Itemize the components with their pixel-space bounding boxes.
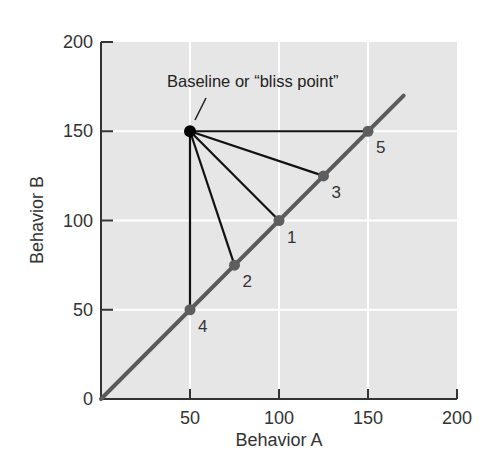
point-label-1: 1 (287, 228, 296, 247)
x-tick-label: 50 (180, 408, 200, 428)
x-tick-label: 150 (353, 408, 383, 428)
y-tick-label: 100 (63, 211, 93, 231)
y-tick-label: 0 (83, 389, 93, 409)
data-point-1 (274, 215, 285, 226)
y-tick-label: 200 (63, 32, 93, 52)
bliss-point-label: Baseline or “bliss point” (167, 72, 339, 90)
data-point-4 (185, 304, 196, 315)
x-axis-title: Behavior A (235, 430, 322, 450)
point-label-3: 3 (332, 183, 341, 202)
y-axis-title: Behavior B (27, 176, 47, 264)
data-point-2 (229, 260, 240, 271)
x-tick-label: 200 (442, 408, 472, 428)
point-label-4: 4 (198, 317, 207, 336)
bliss-point-marker (184, 125, 196, 137)
point-label-2: 2 (243, 272, 252, 291)
y-tick-labels: 050100150200 (63, 32, 93, 409)
y-tick-label: 150 (63, 121, 93, 141)
x-tick-labels: 50100150200 (180, 408, 472, 428)
point-label-5: 5 (376, 138, 385, 157)
data-point-5 (363, 126, 374, 137)
data-point-3 (318, 170, 329, 181)
chart: 050100150200 50100150200 Behavior A Beha… (0, 0, 502, 470)
y-tick-label: 50 (73, 300, 93, 320)
x-tick-label: 100 (264, 408, 294, 428)
